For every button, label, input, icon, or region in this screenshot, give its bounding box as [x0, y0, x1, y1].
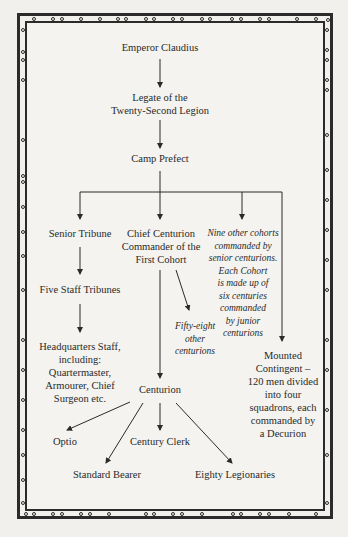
node-chief-centurion: Chief Centurion Commander of the First C…: [115, 227, 207, 266]
node-fifty-eight-centurions: Fifty-eight other centurions: [168, 320, 222, 358]
node-centurion: Centurion: [120, 383, 200, 396]
connector-lines: [0, 0, 348, 537]
node-camp-prefect: Camp Prefect: [110, 152, 210, 165]
node-five-staff-tribunes: Five Staff Tribunes: [30, 283, 130, 296]
node-mounted-contingent: Mounted Contingent – 120 men divided int…: [242, 349, 324, 440]
node-headquarters-staff: Headquarters Staff, including: Quarterma…: [30, 340, 130, 405]
node-legate: Legate of the Twenty-Second Legion: [90, 91, 230, 117]
node-eighty-legionaries: Eighty Legionaries: [185, 468, 285, 481]
node-optio: Optio: [45, 435, 85, 448]
node-senior-tribune: Senior Tribune: [35, 227, 125, 240]
node-standard-bearer: Standard Bearer: [62, 468, 152, 481]
node-century-clerk: Century Clerk: [120, 435, 200, 448]
node-emperor-claudius: Emperor Claudius: [100, 41, 220, 54]
